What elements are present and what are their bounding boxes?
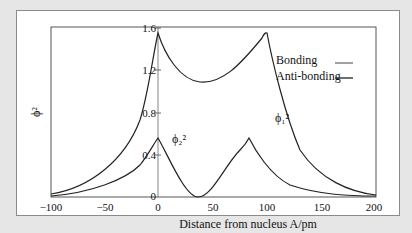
plot-frame	[51, 27, 376, 197]
x-tick-150: 150	[314, 201, 331, 213]
y-tick-12: 1.2	[142, 64, 156, 76]
bonding-curve	[51, 33, 376, 195]
antibonding-curve	[51, 138, 376, 197]
legend-antibonding: Anti-bonding	[276, 69, 341, 83]
chart: 0 0.4 0.8 1.2 1.6 −100 −50 0 50 100 150 …	[0, 0, 412, 233]
x-tick-50: 50	[208, 201, 220, 213]
legend: Bonding Anti-bonding	[276, 53, 353, 83]
phi1-label: ϕ₁²	[275, 111, 290, 125]
x-tick-100: 100	[259, 201, 276, 213]
x-ticks: −100 −50 0 50 100 150 200	[40, 201, 383, 213]
x-axis-label: Distance from nucleus A/pm	[179, 217, 317, 231]
x-tick-0: 0	[155, 201, 161, 213]
x-tick-m100: −100	[40, 201, 63, 213]
x-tick-m50: −50	[96, 201, 114, 213]
y-axis-label: ϕ²	[29, 107, 43, 117]
phi2-label: ϕ₂²	[172, 132, 187, 146]
legend-bonding: Bonding	[276, 53, 317, 67]
x-tick-200: 200	[366, 201, 383, 213]
y-tick-16: 1.6	[142, 22, 156, 34]
y-tick-08: 0.8	[142, 107, 156, 119]
